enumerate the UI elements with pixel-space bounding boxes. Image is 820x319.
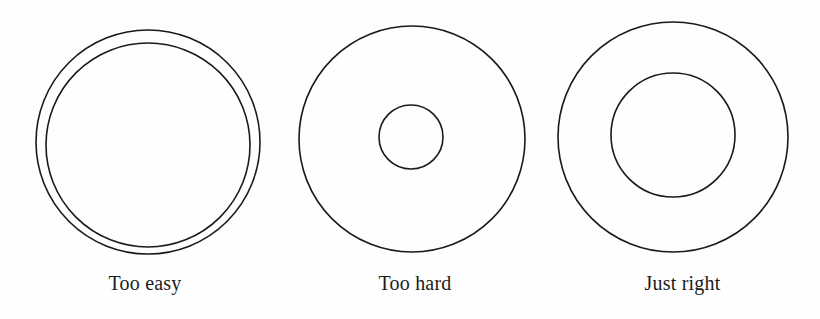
figure-root: Too easy Too hard Just right — [0, 0, 820, 319]
too-hard-circles — [285, 0, 545, 270]
too-easy-outer-circle — [36, 30, 260, 254]
too-hard-outer-circle — [299, 26, 525, 252]
diagram-just-right: Just right — [545, 0, 820, 319]
just-right-outer-circle — [558, 22, 788, 252]
caption-too-easy: Too easy — [0, 272, 290, 295]
just-right-circles — [545, 0, 820, 270]
too-easy-inner-circle — [46, 43, 250, 247]
diagram-too-hard: Too hard — [285, 0, 545, 319]
too-hard-inner-circle — [379, 105, 443, 169]
just-right-inner-circle — [611, 73, 735, 197]
too-easy-circles — [0, 0, 290, 270]
caption-too-hard: Too hard — [285, 272, 545, 295]
caption-just-right: Just right — [545, 272, 820, 295]
diagram-too-easy: Too easy — [0, 0, 290, 319]
